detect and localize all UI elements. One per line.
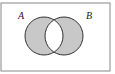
label-b: B: [86, 10, 92, 21]
venn-diagram: A B: [0, 0, 115, 74]
label-a: A: [17, 10, 25, 21]
